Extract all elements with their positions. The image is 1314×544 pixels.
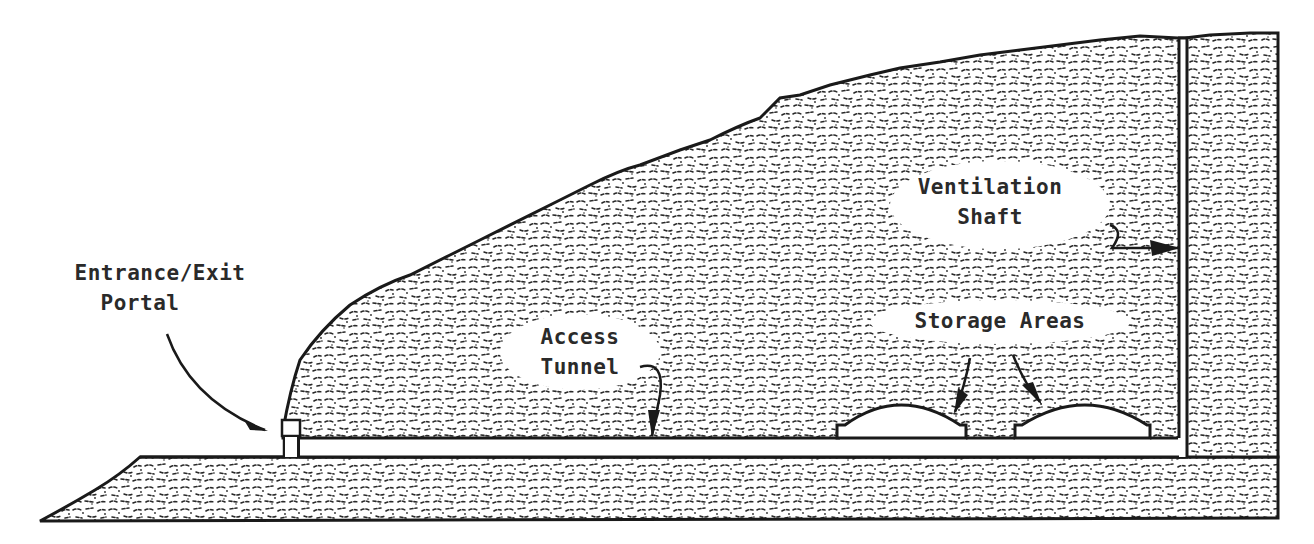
- storage-areas-label: Storage Areas: [870, 306, 1130, 336]
- mountain-rock-mass: [283, 33, 1278, 457]
- ventilation-shaft: [1178, 38, 1188, 457]
- access-tunnel: [300, 438, 1180, 457]
- ventilation-shaft-label: Ventilation Shaft: [880, 172, 1100, 232]
- cross-section-diagram: Entrance/Exit Portal Access Tunnel Venti…: [0, 0, 1314, 544]
- entrance-arrow-icon: [167, 334, 265, 430]
- access-tunnel-label: Access Tunnel: [515, 322, 645, 382]
- base-ground-layer: [40, 457, 1278, 521]
- entrance-exit-portal-label: Entrance/Exit Portal: [30, 258, 290, 318]
- entrance-exit-portal: [282, 420, 300, 457]
